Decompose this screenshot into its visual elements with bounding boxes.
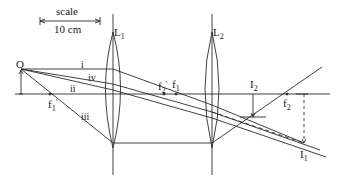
ray-label-ii: ii <box>70 83 76 94</box>
focal-label-f2: f2 <box>283 97 291 112</box>
image-i2-arrow <box>240 94 266 117</box>
ray-label-iv: iv <box>88 72 96 83</box>
object-label: O <box>16 58 24 70</box>
ray-diagram: scale 10 cm O L1 L2 i iv ii iii f1' f2' … <box>0 0 348 181</box>
image-i1-arrow <box>296 94 308 143</box>
lens-l2 <box>205 14 219 175</box>
ray-i <box>21 69 304 143</box>
focal-label-f1-prime: f1' <box>48 98 58 113</box>
object-arrow <box>19 70 23 94</box>
scale-label: scale <box>56 5 78 17</box>
focal-point-f1-prime <box>49 93 51 95</box>
lens-l1-label: L1 <box>114 26 125 41</box>
ray-iv <box>21 69 320 150</box>
focal-point-f2 <box>286 93 288 95</box>
image-label-i2: I2 <box>250 78 258 93</box>
ray-label-iii: iii <box>81 111 90 122</box>
focal-label-f2-prime: f2' <box>158 80 168 95</box>
lens-l1 <box>106 14 121 175</box>
scale-value: 10 cm <box>54 23 82 35</box>
lens-l2-label: L2 <box>213 26 224 41</box>
focal-point-f1 <box>175 93 177 95</box>
ray-label-i: i <box>81 59 84 70</box>
